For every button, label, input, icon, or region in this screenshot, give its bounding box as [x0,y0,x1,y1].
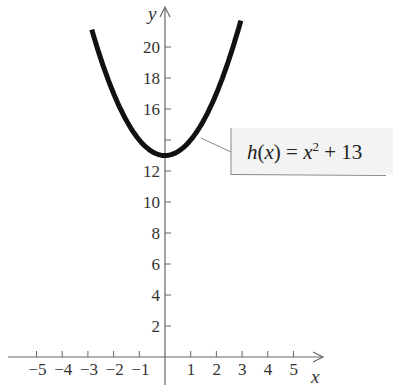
leader-line [201,138,231,152]
x-axis-label: x [310,366,320,387]
y-axis-label: y [146,3,157,24]
x-tick-label: −3 [80,360,98,379]
x-tick-label: 5 [290,360,299,379]
y-tick-label: 12 [143,162,160,181]
y-tick-label: 8 [152,224,161,243]
x-tick-label: 1 [187,360,196,379]
function-curve [92,21,241,156]
y-tick-label: 16 [143,100,160,119]
ticks: −5−4−3−2−11234524681012161820 [29,38,299,379]
y-tick-label: 6 [152,255,161,274]
x-tick-label: −1 [131,360,149,379]
y-tick-label: 10 [143,193,160,212]
y-tick-label: 20 [143,38,160,57]
x-tick-label: 3 [238,360,247,379]
y-tick-label: 4 [152,286,161,305]
x-tick-label: −4 [54,360,73,379]
parabola-chart: xy −5−4−3−2−11234524681012161820 h(x) = … [0,0,393,391]
x-tick-label: −5 [29,360,47,379]
x-tick-label: 2 [212,360,221,379]
function-label: h(x) = x2 + 13 [247,139,362,164]
x-tick-label: −2 [106,360,124,379]
x-tick-label: 4 [264,360,273,379]
y-tick-label: 18 [143,69,160,88]
axes: xy [8,3,323,387]
y-tick-label: 2 [152,317,161,336]
